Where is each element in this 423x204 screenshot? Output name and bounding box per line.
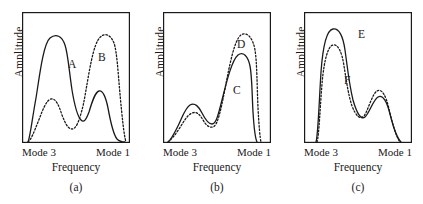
curve-label-c: C bbox=[233, 84, 241, 96]
x-axis-ticks-b: Mode 3 Mode 1 bbox=[163, 146, 271, 158]
curve-label-f: F bbox=[344, 74, 350, 86]
plot-area-b: C D bbox=[163, 12, 271, 143]
xtick-mode3-b: Mode 3 bbox=[163, 146, 197, 158]
xtick-mode1-b: Mode 1 bbox=[237, 146, 271, 158]
xtick-mode1-c: Mode 1 bbox=[378, 146, 412, 158]
curve-label-d: D bbox=[237, 38, 245, 50]
figure-panels: Amplitude A B Mode 3 Mode 1 Frequency (a… bbox=[0, 0, 423, 204]
panel-c: Amplitude E F Mode 3 Mode 1 Frequency (c… bbox=[282, 0, 423, 204]
x-axis-label-b: Frequency bbox=[163, 161, 271, 173]
xtick-mode3-c: Mode 3 bbox=[304, 146, 338, 158]
x-axis-ticks-a: Mode 3 Mode 1 bbox=[22, 146, 130, 158]
panel-caption-a: (a) bbox=[22, 181, 130, 193]
x-axis-label-c: Frequency bbox=[304, 161, 412, 173]
curve-label-b: B bbox=[98, 51, 106, 63]
xtick-mode1-a: Mode 1 bbox=[96, 146, 130, 158]
panel-caption-c: (c) bbox=[304, 181, 412, 193]
panel-b: Amplitude C D Mode 3 Mode 1 Frequency (b… bbox=[141, 0, 282, 204]
curve-label-a: A bbox=[68, 58, 76, 70]
curve-label-e: E bbox=[358, 28, 365, 40]
panel-a: Amplitude A B Mode 3 Mode 1 Frequency (a… bbox=[0, 0, 141, 204]
xtick-mode3-a: Mode 3 bbox=[22, 146, 56, 158]
panel-caption-b: (b) bbox=[163, 181, 271, 193]
plot-area-a: A B bbox=[22, 12, 130, 143]
x-axis-label-a: Frequency bbox=[22, 161, 130, 173]
plot-area-c: E F bbox=[304, 12, 412, 143]
x-axis-ticks-c: Mode 3 Mode 1 bbox=[304, 146, 412, 158]
